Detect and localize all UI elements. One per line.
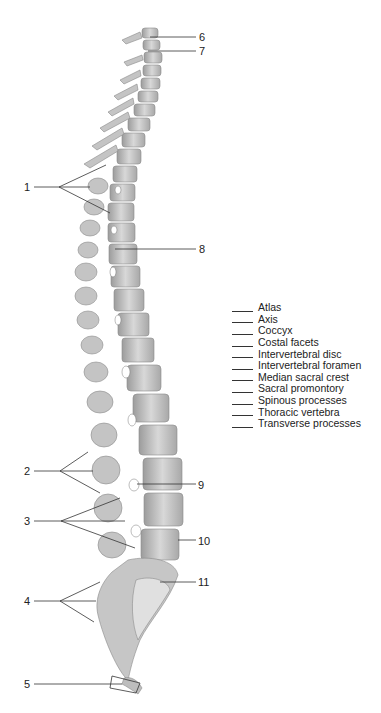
callout-7: 7 bbox=[199, 45, 205, 57]
answer-blank[interactable] bbox=[232, 339, 253, 347]
legend-item-transverse-processes: Transverse processes bbox=[232, 418, 361, 430]
callout-11: 11 bbox=[198, 576, 209, 588]
answer-blank[interactable] bbox=[232, 327, 253, 335]
legend-label: Thoracic vertebra bbox=[258, 407, 340, 418]
legend-label: Axis bbox=[258, 314, 278, 325]
answer-blank[interactable] bbox=[232, 420, 253, 428]
legend-label: Coccyx bbox=[258, 325, 292, 336]
answer-blank[interactable] bbox=[232, 397, 253, 405]
legend-item-costal-facets: Costal facets bbox=[232, 337, 361, 349]
legend-label: Costal facets bbox=[258, 337, 319, 348]
legend-item-intervertebral-foramen: Intervertebral foramen bbox=[232, 360, 361, 372]
legend-item-axis: Axis bbox=[232, 314, 361, 326]
legend-label: Spinous processes bbox=[258, 395, 347, 406]
legend-item-coccyx: Coccyx bbox=[232, 325, 361, 337]
legend-item-sacral-promontory: Sacral promontory bbox=[232, 383, 361, 395]
callout-3: 3 bbox=[24, 515, 30, 527]
answer-blank[interactable] bbox=[232, 304, 253, 312]
callout-2: 2 bbox=[24, 465, 30, 477]
sacrum-coccyx bbox=[97, 558, 178, 694]
legend-label: Sacral promontory bbox=[258, 383, 344, 394]
answer-blank[interactable] bbox=[232, 350, 253, 358]
legend-item-intervertebral-disc: Intervertebral disc bbox=[232, 348, 361, 360]
legend-label: Intervertebral disc bbox=[258, 349, 341, 360]
callout-9: 9 bbox=[198, 479, 204, 491]
answer-blank[interactable] bbox=[232, 408, 253, 416]
answer-blank[interactable] bbox=[232, 315, 253, 323]
legend-item-thoracic-vertebra: Thoracic vertebra bbox=[232, 406, 361, 418]
callout-5: 5 bbox=[24, 678, 30, 690]
legend-item-atlas: Atlas bbox=[232, 302, 361, 314]
answer-blank[interactable] bbox=[232, 385, 253, 393]
legend-label: Transverse processes bbox=[258, 418, 361, 429]
label-legend: Atlas Axis Coccyx Costal facets Interver… bbox=[232, 302, 361, 430]
legend-item-spinous-processes: Spinous processes bbox=[232, 395, 361, 407]
callout-8: 8 bbox=[199, 243, 205, 255]
callout-6: 6 bbox=[199, 31, 205, 43]
callout-4: 4 bbox=[24, 595, 30, 607]
answer-blank[interactable] bbox=[232, 373, 253, 381]
legend-label: Median sacral crest bbox=[258, 372, 349, 383]
answer-blank[interactable] bbox=[232, 362, 253, 370]
legend-item-median-sacral-crest: Median sacral crest bbox=[232, 372, 361, 384]
legend-label: Atlas bbox=[258, 302, 281, 313]
legend-label: Intervertebral foramen bbox=[258, 360, 361, 371]
callout-10: 10 bbox=[198, 535, 210, 547]
callout-1: 1 bbox=[24, 181, 30, 193]
